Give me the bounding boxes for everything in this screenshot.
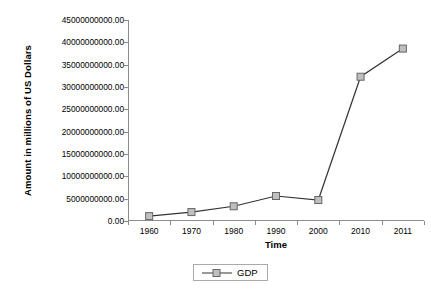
data-point-marker bbox=[399, 45, 406, 52]
y-axis-tick-label: 10000000000.00 bbox=[14, 172, 124, 181]
y-axis-tick-mark bbox=[124, 109, 128, 110]
plot-area bbox=[128, 20, 424, 221]
x-axis-tick-mark bbox=[255, 221, 256, 225]
x-axis-tick-mark bbox=[339, 221, 340, 225]
y-axis-tick-mark bbox=[124, 154, 128, 155]
y-axis-tick-mark bbox=[124, 176, 128, 177]
y-axis-tick-label: 40000000000.00 bbox=[14, 38, 124, 47]
y-axis-tick-mark bbox=[124, 132, 128, 133]
data-point-marker bbox=[357, 73, 364, 80]
x-axis-tick-mark bbox=[213, 221, 214, 225]
x-axis-title: Time bbox=[128, 239, 424, 250]
y-axis-tick-mark bbox=[124, 199, 128, 200]
y-axis-tick-label: 30000000000.00 bbox=[14, 83, 124, 92]
y-axis-tick-label: 15000000000.00 bbox=[14, 150, 124, 159]
x-axis-tick-mark bbox=[382, 221, 383, 225]
x-axis-tick-mark bbox=[297, 221, 298, 225]
x-axis-tick-mark bbox=[424, 221, 425, 225]
x-axis-tick-mark bbox=[170, 221, 171, 225]
y-axis-tick-label: 35000000000.00 bbox=[14, 60, 124, 69]
y-axis-tick-label: 25000000000.00 bbox=[14, 105, 124, 114]
y-axis-tick-mark bbox=[124, 65, 128, 66]
x-axis-tick-mark bbox=[128, 221, 129, 225]
y-axis-tick-label: 5000000000.00 bbox=[14, 194, 124, 203]
y-axis-tick-mark bbox=[124, 87, 128, 88]
legend: GDP bbox=[193, 264, 268, 281]
y-axis-tick-label: 45000000000.00 bbox=[14, 16, 124, 25]
data-point-marker bbox=[315, 197, 322, 204]
x-axis-tick-label: 2011 bbox=[373, 226, 431, 236]
y-axis-tick-mark bbox=[124, 20, 128, 21]
legend-line-marker-icon bbox=[202, 268, 232, 278]
data-point-marker bbox=[188, 209, 195, 216]
data-point-marker bbox=[146, 213, 153, 220]
data-point-marker bbox=[230, 203, 237, 210]
y-axis-tick-label: 20000000000.00 bbox=[14, 127, 124, 136]
x-axis-tick-label-group: 1960197019801990200020102011 bbox=[128, 226, 424, 240]
gdp-line-chart: Amount in millions of US Dollars 0.00500… bbox=[0, 0, 431, 297]
legend-label-gdp: GDP bbox=[237, 267, 258, 278]
y-axis-tick-label-group: 0.005000000000.0010000000000.00150000000… bbox=[14, 20, 124, 221]
data-point-marker bbox=[273, 192, 280, 199]
y-axis-tick-mark bbox=[124, 42, 128, 43]
series-line-gdp bbox=[149, 49, 403, 217]
series-gdp bbox=[128, 20, 424, 221]
y-axis-tick-label: 0.00 bbox=[14, 217, 124, 226]
